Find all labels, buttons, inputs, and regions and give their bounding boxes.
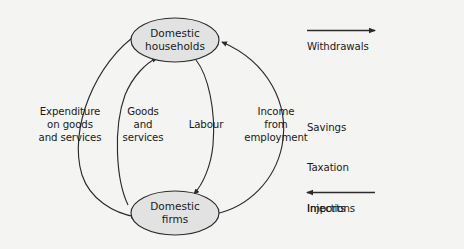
flow-label-expenditure: Expenditure on goods and services: [26, 105, 114, 145]
withdrawals-title: Withdrawals: [307, 40, 369, 53]
node-firms-line1: Domestic: [150, 200, 200, 212]
flow-label-labour: Labour: [180, 118, 232, 131]
withdrawals-item-savings: Savings: [307, 121, 369, 134]
node-households-line2: households: [145, 40, 205, 52]
node-households-line1: Domestic: [150, 27, 200, 39]
injections-block: Injections Exports Capital purchases Gov…: [307, 175, 419, 249]
injections-title: Injections: [307, 202, 419, 215]
withdrawals-item-taxation: Taxation: [307, 161, 369, 174]
circular-flow-diagram: Domestic households Domestic firms Expen…: [0, 0, 464, 249]
node-firms-line2: firms: [162, 213, 188, 225]
flow-label-goods-and-services: Goods and services: [112, 105, 174, 145]
